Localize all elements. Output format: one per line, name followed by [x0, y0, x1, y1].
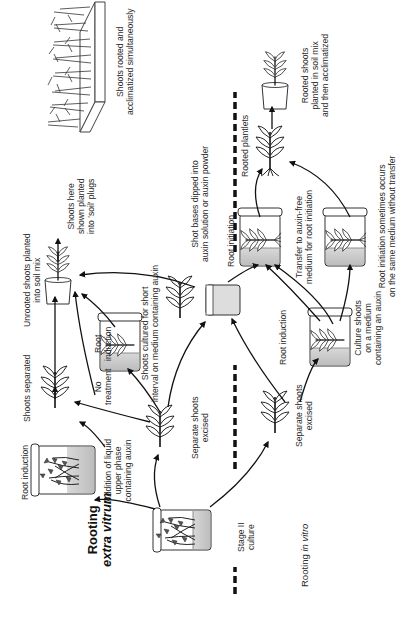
title-extra-vitrum: Rooting extra vitrum [86, 493, 114, 567]
label-root-initiation-same: Root initiation sometimes occurson the s… [377, 156, 397, 297]
auxin-dip-vial [206, 285, 240, 315]
label-shot-bases: Shot bases dipped intoauxin solution or … [190, 146, 210, 262]
label-root-induction-top: Root induction [20, 445, 30, 500]
label-rooted-shoots-planted: Rooted shootsplanted in soil mixand then… [300, 34, 330, 117]
label-shown-planted: Shoots hereshown plantedinto 'soil' plug… [66, 179, 96, 234]
culture-auxin-jar [308, 308, 352, 366]
rooted-plantlet [256, 126, 284, 176]
label-shoots-cultured: Shoots cultured for shortinterval on med… [140, 265, 160, 402]
same-medium-jar [323, 208, 367, 266]
label-stage2: Stage IIculture [236, 522, 256, 552]
label-separate-shoots-bottom: Separate shootsexcised [294, 384, 314, 447]
separate-shoot-bottom [261, 391, 289, 433]
label-unrooted-planted: Unrooted shoots plantedinto soil mix [22, 233, 42, 327]
label-root-induction-bottom: Root induction [278, 310, 288, 365]
label-tray: Shoots rooted andacclimatized simultaneo… [115, 8, 135, 115]
stage2-jar [153, 508, 211, 552]
label-culture-shoots: Culture shootson a mediumcontaining an a… [353, 291, 383, 365]
label-addition-liquid: Addition of liquidupper phasecontaining … [103, 439, 133, 502]
soil-plug-tray [48, 2, 105, 132]
final-pot [262, 52, 288, 109]
label-no-treatment: Notreatment [93, 369, 113, 405]
label-shoots-separated: Shoots separated [22, 355, 32, 422]
label-separate-shoots-top: Separate shootsexcised [190, 396, 210, 459]
label-root-induction-mid: Rootinduction [93, 327, 113, 361]
label-root-initiation: Root initiation [226, 215, 236, 267]
label-transfer: Transfer to auxin-freemedium for root in… [294, 190, 314, 284]
rooting-diagram: Rooting extra vitrum Rooting in vitro St… [0, 0, 416, 627]
root-induction-liquid-jar [31, 444, 95, 496]
title-in-vitro: Rooting in vitro [300, 524, 310, 587]
label-rooted-plantlets: Rooted plantlets [240, 115, 250, 177]
